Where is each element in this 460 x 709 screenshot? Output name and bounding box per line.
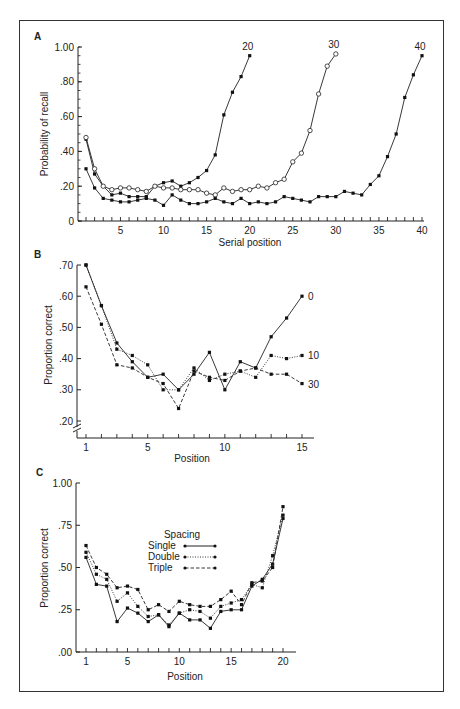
legend-label-single: Single: [148, 540, 176, 551]
x-tick-label: 10: [174, 656, 186, 667]
y-tick-label: 1.00: [55, 42, 75, 53]
panel-b: B Position Proportion correct .20.30.40.…: [34, 249, 320, 464]
series-end-label: 20: [242, 41, 254, 52]
y-tick-label: .80: [60, 76, 74, 87]
panel-c-legend: Spacing Single Double Triple: [148, 529, 217, 573]
panel-b-letter: B: [34, 249, 41, 260]
panel-a-ylabel: Probability of recall: [39, 92, 50, 176]
panel-b-plot: .20.30.40.50.60.7015101501030: [59, 260, 319, 454]
series-line-30: [86, 54, 336, 195]
x-tick-label: 5: [145, 442, 151, 453]
y-tick-label: .00: [58, 647, 72, 658]
x-tick-label: 30: [330, 225, 342, 236]
legend-swatch-triple: [183, 566, 216, 569]
panel-c-ylabel: Proportion correct: [39, 528, 50, 608]
x-tick-label: 10: [219, 442, 231, 453]
legend-swatch-double: [183, 555, 216, 558]
x-tick-label: 5: [118, 225, 124, 236]
x-tick-label: 1: [83, 656, 89, 667]
panel-c: C Position Proportion correct .00.25.50.…: [36, 467, 296, 682]
panel-a: A Serial position Probability of recall …: [34, 31, 428, 248]
y-tick-label: .40: [60, 146, 74, 157]
series-end-label: 40: [414, 41, 426, 52]
y-tick-label: 0: [68, 216, 74, 227]
y-tick-label: .60: [60, 111, 74, 122]
panel-a-plot: 0.20.40.60.801.00510152025303540203040: [55, 39, 428, 236]
x-tick-label: 35: [373, 225, 385, 236]
x-tick-label: 15: [201, 225, 213, 236]
x-tick-label: 5: [125, 656, 131, 667]
y-tick-label: .75: [58, 520, 72, 531]
x-tick-label: 15: [226, 656, 238, 667]
legend-title: Spacing: [164, 529, 200, 540]
x-tick-label: 1: [83, 442, 89, 453]
x-tick-label: 20: [277, 656, 289, 667]
x-tick-label: 15: [296, 442, 308, 453]
y-tick-label: .20: [60, 181, 74, 192]
series-end-label: 0: [308, 291, 314, 302]
y-tick-label: .70: [59, 260, 73, 271]
panel-c-plot: .00.25.50.751.0015101520: [53, 478, 296, 668]
figure-canvas: A Serial position Probability of recall …: [0, 0, 460, 709]
x-tick-label: 20: [244, 225, 256, 236]
y-tick-label: .30: [59, 384, 73, 395]
panel-a-xlabel: Serial position: [219, 237, 282, 248]
legend-label-double: Double: [148, 551, 180, 562]
panel-c-letter: C: [36, 467, 43, 478]
y-tick-label: .60: [59, 291, 73, 302]
y-tick-label: .40: [59, 353, 73, 364]
y-tick-label: .25: [58, 604, 72, 615]
panel-b-ylabel: Proportion correct: [43, 305, 54, 385]
series-end-label: 30: [328, 39, 340, 50]
y-tick-label: .50: [59, 322, 73, 333]
y-tick-label: .50: [58, 562, 72, 573]
x-tick-label: 25: [287, 225, 299, 236]
legend-label-triple: Triple: [148, 562, 173, 573]
panel-a-letter: A: [34, 31, 41, 42]
y-tick-label: 1.00: [53, 478, 73, 489]
series-end-label: 30: [308, 379, 320, 390]
series-line-20: [86, 56, 250, 197]
y-tick-label: .20: [59, 416, 73, 427]
x-tick-label: 10: [158, 225, 170, 236]
series-line-triple: [86, 507, 283, 612]
legend-swatch-single: [183, 544, 216, 547]
series-end-label: 10: [308, 350, 320, 361]
panel-b-xlabel: Position: [174, 453, 210, 464]
x-tick-label: 40: [416, 225, 428, 236]
panel-c-xlabel: Position: [167, 671, 203, 682]
